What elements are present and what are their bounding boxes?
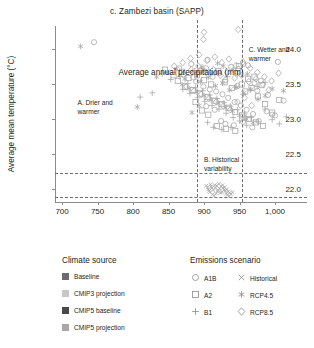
legend-item-historical[interactable]: Historical xyxy=(236,273,277,282)
plot-area: 22.022.523.023.524.0 7007508008509009501… xyxy=(55,26,307,202)
chart-title: c. Zambezi basin (SAPP) xyxy=(0,7,314,16)
scatter-marker-square xyxy=(260,123,265,128)
scatter-marker-asterisk xyxy=(281,88,286,94)
scatter-marker-diamond xyxy=(212,54,218,61)
x-tick-label: 1,000 xyxy=(265,207,285,216)
scatter-marker-circle xyxy=(212,107,217,112)
legend-item-cmip5-baseline[interactable]: CMIP5 baseline xyxy=(62,307,121,314)
series-historical xyxy=(204,182,234,198)
scatter-marker-x xyxy=(229,192,233,196)
diamond-marker-icon xyxy=(236,307,247,316)
scatter-marker-circle xyxy=(220,92,225,97)
legend-item-b1[interactable]: B1 xyxy=(190,307,212,316)
scatter-marker-circle xyxy=(250,125,255,130)
scatter-marker-plus xyxy=(276,121,282,127)
scatter-marker-circle xyxy=(219,118,224,123)
legend-item-cmip5-projection[interactable]: CMIP5 projection xyxy=(62,324,125,331)
x-marker-icon xyxy=(236,273,247,282)
y-axis-title: Average mean temperature (°C) xyxy=(7,56,16,172)
legend-item-a2[interactable]: A2 xyxy=(190,290,212,299)
x-tick-mark xyxy=(62,202,63,205)
legend-swatch-icon xyxy=(62,307,69,314)
square-marker-icon xyxy=(190,290,201,299)
scatter-marker-diamond xyxy=(196,52,202,59)
legend-swatch-icon xyxy=(62,273,69,280)
legend-item-label: RCP8.5 xyxy=(250,309,273,316)
legend-item-label: Historical xyxy=(250,275,277,282)
scatter-marker-diamond xyxy=(242,95,248,102)
scatter-marker-x xyxy=(214,192,218,196)
x-tick-label: 850 xyxy=(162,207,175,216)
scatter-marker-plus xyxy=(137,94,143,100)
scatter-marker-x xyxy=(204,184,208,188)
x-tick-label: 700 xyxy=(55,207,68,216)
scatter-marker-diamond xyxy=(180,59,186,66)
legend-item-rcp8-5[interactable]: RCP8.5 xyxy=(236,307,273,316)
scatter-marker-x xyxy=(231,190,235,194)
legend-item-a1b[interactable]: A1B xyxy=(190,273,216,282)
x-tick-mark xyxy=(240,202,241,205)
legend-item-cmip3-projection[interactable]: CMIP3 projection xyxy=(62,290,125,297)
scatter-marker-square xyxy=(214,123,219,128)
legend-item-label: CMIP5 baseline xyxy=(74,307,121,314)
scatter-marker-circle xyxy=(226,95,231,100)
legend-item-label: CMIP3 projection xyxy=(74,290,125,297)
scatter-marker-circle xyxy=(214,89,219,94)
scatter-marker-circle xyxy=(91,40,96,45)
scatter-marker-diamond xyxy=(201,36,207,43)
scatter-marker-diamond xyxy=(226,56,232,63)
legend-swatch-icon xyxy=(62,290,69,297)
scatter-marker-plus xyxy=(237,118,243,124)
scatter-marker-circle xyxy=(201,84,206,89)
scatter-marker-asterisk xyxy=(190,110,195,116)
scatter-marker-plus xyxy=(192,308,199,315)
x-tick-mark xyxy=(275,202,276,205)
legend-swatch-icon xyxy=(62,324,69,331)
scatter-marker-plus xyxy=(244,122,250,128)
legend-item-label: B1 xyxy=(204,309,212,316)
scatter-marker-plus xyxy=(223,110,229,116)
legend-item-rcp4-5[interactable]: RCP4.5 xyxy=(236,290,273,299)
scatter-marker-plus xyxy=(205,119,211,125)
scatter-marker-plus xyxy=(254,84,260,90)
scatter-marker-diamond xyxy=(188,55,194,61)
x-tick-mark xyxy=(169,202,170,205)
x-tick-label: 750 xyxy=(91,207,104,216)
legend-item-label: A2 xyxy=(204,292,212,299)
scatter-marker-circle xyxy=(193,275,199,281)
scatter-marker-plus xyxy=(230,115,236,121)
x-tick-label: 950 xyxy=(233,207,246,216)
scatter-marker-square xyxy=(223,126,228,131)
scatter-marker-square xyxy=(199,108,204,113)
scatter-marker-diamond xyxy=(276,70,282,77)
scatter-marker-square xyxy=(263,102,268,107)
x-axis-title: Average annual precipitation (mm) xyxy=(119,68,244,77)
asterisk-marker-icon xyxy=(236,290,247,299)
annotation-c-wetter-warmer: C. Wetter and warmer xyxy=(249,46,293,63)
scatter-marker-diamond xyxy=(238,308,245,316)
legend-item-baseline[interactable]: Baseline xyxy=(62,273,99,280)
x-tick-mark xyxy=(133,202,134,205)
scatter-marker-square xyxy=(193,292,199,298)
scatter-marker-square xyxy=(206,112,211,117)
legend: Climate source Emissions scenario Baseli… xyxy=(0,256,314,348)
legend-heading-emissions-scenario: Emissions scenario xyxy=(190,256,261,265)
scatter-marker-circle xyxy=(207,87,212,92)
legend-item-label: Baseline xyxy=(74,273,99,280)
scatter-marker-plus xyxy=(210,124,216,130)
x-axis-line xyxy=(55,202,307,203)
x-tick-mark xyxy=(98,202,99,205)
plus-marker-icon xyxy=(190,307,201,316)
legend-item-label: RCP4.5 xyxy=(250,292,273,299)
legend-item-label: A1B xyxy=(204,275,216,282)
scatter-marker-plus xyxy=(168,77,174,83)
scatter-marker-asterisk xyxy=(78,44,83,50)
scatter-marker-plus xyxy=(283,114,289,120)
scatter-marker-asterisk xyxy=(239,291,245,298)
scatter-marker-x xyxy=(216,188,220,192)
annotation-a-drier-warmer: A. Drier and warmer xyxy=(78,99,128,116)
figure-container: c. Zambezi basin (SAPP) 22.022.523.023.5… xyxy=(0,0,314,348)
scatter-marker-asterisk xyxy=(135,104,140,110)
scatter-marker-x xyxy=(225,187,229,191)
scatter-marker-diamond xyxy=(269,78,275,85)
